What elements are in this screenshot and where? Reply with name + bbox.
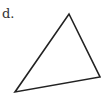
triangle-shape: [15, 14, 100, 92]
triangle-figure: [0, 0, 106, 101]
